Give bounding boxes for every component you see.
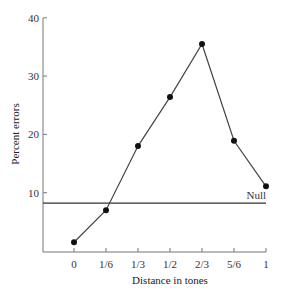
y-axis-title: Percent errors: [9, 103, 21, 164]
x-tick-label: 1: [263, 258, 269, 270]
x-tick-label: 0: [71, 258, 77, 270]
data-series: [71, 41, 269, 245]
y-tick-label: 10: [28, 187, 40, 199]
y-tick-label: 40: [28, 12, 40, 24]
x-tick-label: 1/6: [99, 258, 114, 270]
x-tick-label: 1/2: [163, 258, 177, 270]
x-axis-title: Distance in tones: [132, 274, 208, 286]
data-point-marker: [135, 143, 141, 149]
x-tick-label: 1/3: [131, 258, 146, 270]
null-reference-line: Null: [43, 189, 266, 203]
x-tick-label: 5/6: [227, 258, 242, 270]
x-tick-label: 2/3: [195, 258, 210, 270]
series-line: [74, 44, 266, 242]
chart: 1020304001/61/31/22/35/61 Null Distance …: [0, 0, 283, 293]
data-point-marker: [167, 94, 173, 100]
data-point-marker: [231, 138, 237, 144]
data-point-marker: [263, 183, 269, 189]
y-tick-label: 30: [28, 70, 40, 82]
null-label: Null: [246, 189, 266, 201]
y-tick-label: 20: [28, 128, 40, 140]
data-point-marker: [71, 239, 77, 245]
data-point-marker: [103, 207, 109, 213]
data-point-marker: [199, 41, 205, 47]
